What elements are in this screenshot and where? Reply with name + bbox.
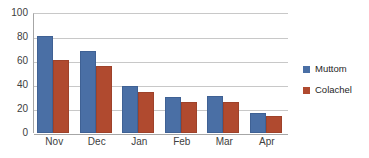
legend-item-colachel[interactable]: Colachel [303, 82, 367, 98]
bar-muttom-mar[interactable] [207, 96, 223, 133]
bar-muttom-feb[interactable] [165, 97, 181, 133]
bar-colachel-mar[interactable] [223, 102, 239, 133]
legend-label-colachel: Colachel [315, 85, 352, 95]
legend-swatch-colachel-icon [303, 87, 310, 94]
bar-colachel-nov[interactable] [53, 60, 69, 133]
x-axis-tick-label: Apr [246, 136, 289, 148]
chart-legend: Muttom Colachel [303, 61, 367, 103]
bar-colachel-apr[interactable] [266, 116, 282, 133]
bar-muttom-dec[interactable] [80, 51, 96, 133]
x-axis-tick-label: Jan [118, 136, 161, 148]
y-axis: 020406080100 [4, 0, 28, 158]
bar-group [162, 14, 205, 133]
bar-group [204, 14, 247, 133]
legend-label-muttom: Muttom [315, 64, 347, 74]
y-axis-tick-label: 60 [4, 56, 28, 66]
bar-colachel-jan[interactable] [138, 92, 154, 133]
y-axis-tick-label: 40 [4, 80, 28, 90]
y-axis-tick-label: 0 [4, 128, 28, 138]
bar-group [34, 14, 77, 133]
bar-colachel-dec[interactable] [96, 66, 112, 133]
plot-area [33, 13, 288, 133]
bar-group [247, 14, 290, 133]
bar-chart: 020406080100 NovDecJanFebMarApr Muttom C… [0, 0, 369, 158]
x-axis-tick-label: Feb [161, 136, 204, 148]
bar-muttom-apr[interactable] [250, 113, 266, 133]
bar-series-layer [34, 14, 288, 133]
x-axis: NovDecJanFebMarApr [33, 136, 288, 156]
axis-baseline [34, 134, 288, 135]
x-axis-tick-label: Dec [76, 136, 119, 148]
bar-colachel-feb[interactable] [181, 102, 197, 133]
bar-muttom-jan[interactable] [122, 86, 138, 133]
x-axis-tick-label: Mar [203, 136, 246, 148]
y-axis-tick-label: 100 [4, 8, 28, 18]
bar-muttom-nov[interactable] [37, 36, 53, 133]
y-axis-tick-label: 20 [4, 104, 28, 114]
legend-item-muttom[interactable]: Muttom [303, 61, 367, 77]
x-axis-tick-label: Nov [33, 136, 76, 148]
bar-group [119, 14, 162, 133]
bar-group [77, 14, 120, 133]
y-axis-tick-label: 80 [4, 32, 28, 42]
legend-swatch-muttom-icon [303, 66, 310, 73]
